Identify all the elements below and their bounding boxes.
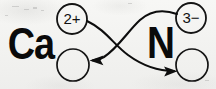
circle-outline [57, 49, 89, 81]
empty-circle-calcium-side [57, 49, 89, 81]
empty-circle-nitrogen-side [176, 49, 208, 81]
charge-label-nitrogen: 3− [182, 9, 199, 26]
ionic-diagram-container: Ca N 2+ 3− [0, 0, 216, 89]
arrowhead [90, 56, 104, 66]
charge-label-calcium: 2+ [63, 10, 80, 27]
charge-circle-nitrogen-3minus: 3− [176, 3, 206, 33]
charge-circle-calcium-2plus: 2+ [57, 4, 87, 34]
diagram-svg-canvas: Ca N 2+ 3− [0, 0, 216, 89]
circle-outline [176, 49, 208, 81]
element-symbol-nitrogen: N [147, 17, 175, 67]
element-symbol-calcium: Ca [8, 19, 57, 68]
